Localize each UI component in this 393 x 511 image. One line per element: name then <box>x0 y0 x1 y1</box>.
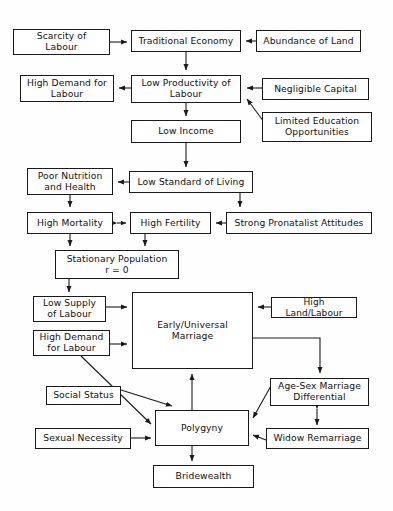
node-limited-education-opportunities: Limited Education Opportunities <box>262 112 372 142</box>
node-label: Social Status <box>53 390 114 401</box>
node-label: Low Productivity of Labour <box>141 78 230 100</box>
node-label: Polygyny <box>181 423 223 434</box>
node-negligible-capital: Negligible Capital <box>262 78 369 100</box>
edge-widow-remarriage-to-polygyny <box>253 435 266 440</box>
node-label: Strong Pronatalist Attitudes <box>234 218 363 229</box>
node-high-mortality: High Mortality <box>27 212 113 234</box>
node-label: Low Income <box>158 126 214 137</box>
node-low-productivity-of-labour: Low Productivity of Labour <box>131 75 241 103</box>
node-label: High Land/Labour <box>274 297 354 318</box>
node-label: Poor Nutrition and Health <box>38 171 103 193</box>
node-label: Low Supply of Labour <box>43 298 96 320</box>
node-label: Traditional Economy <box>139 36 234 47</box>
node-label: High Mortality <box>37 218 103 229</box>
node-label: Bridewealth <box>176 471 232 482</box>
node-label: Stationary Population r = 0 <box>67 254 168 276</box>
node-strong-pronatalist-attitudes: Strong Pronatalist Attitudes <box>226 212 372 234</box>
node-widow-remarriage: Widow Remarriage <box>266 428 369 449</box>
node-high-demand-for-labour-top: High Demand for Labour <box>20 75 114 102</box>
diagram-canvas: Scarcity of Labour Traditional Economy A… <box>0 0 393 511</box>
node-low-supply-of-labour: Low Supply of Labour <box>33 296 106 322</box>
node-label: High Demand for Labour <box>39 332 103 354</box>
node-label: Sexual Necessity <box>43 433 123 444</box>
node-bridewealth: Bridewealth <box>153 465 254 488</box>
edge-early-universal-marriage-to-age-sex <box>253 338 320 373</box>
node-label: Abundance of Land <box>263 36 353 47</box>
node-label: High Demand for Labour <box>27 78 107 100</box>
node-stationary-population: Stationary Population r = 0 <box>55 250 179 279</box>
node-sexual-necessity: Sexual Necessity <box>35 428 131 449</box>
node-age-sex-marriage-differential: Age-Sex Marriage Differential <box>270 378 369 406</box>
node-polygyny: Polygyny <box>155 410 249 446</box>
node-early-universal-marriage: Early/Universal Marriage <box>132 292 253 369</box>
edge-social-status-to-polygyny <box>121 390 172 406</box>
node-label: Early/Universal Marriage <box>157 320 228 342</box>
node-low-income: Low Income <box>131 120 241 143</box>
node-traditional-economy: Traditional Economy <box>131 30 241 52</box>
node-low-standard-of-living: Low Standard of Living <box>129 171 253 193</box>
node-label: High Fertility <box>141 218 201 229</box>
node-abundance-of-land: Abundance of Land <box>256 30 361 52</box>
node-label: Limited Education Opportunities <box>275 116 360 138</box>
node-label: Widow Remarriage <box>273 433 361 444</box>
node-high-fertility: High Fertility <box>130 212 211 234</box>
node-poor-nutrition-and-health: Poor Nutrition and Health <box>27 168 113 195</box>
node-label: Negligible Capital <box>274 84 357 95</box>
node-label: Age-Sex Marriage Differential <box>278 381 361 403</box>
node-label: Scarcity of Labour <box>37 31 87 53</box>
node-social-status: Social Status <box>46 386 121 405</box>
node-scarcity-of-labour: Scarcity of Labour <box>13 29 110 55</box>
node-high-land-labour: High Land/Labour <box>271 297 357 318</box>
node-high-demand-for-labour-bottom: High Demand for Labour <box>33 330 110 356</box>
node-label: Low Standard of Living <box>138 177 245 188</box>
